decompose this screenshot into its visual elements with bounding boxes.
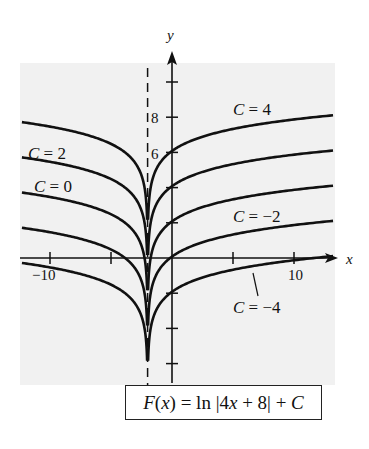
curve-label-cm4: C = −4 <box>233 298 281 317</box>
y-axis-label: y <box>165 27 174 43</box>
y-tick-label-6: 6 <box>151 146 159 162</box>
curve-label-cm2: C = −2 <box>233 207 281 226</box>
formula-text: F(x) = ln |4x + 8| + C <box>143 392 304 414</box>
curve-label-c2: C = 2 <box>28 144 66 163</box>
x-tick-label-neg10: −10 <box>32 267 55 283</box>
curve-label-c4: C = 4 <box>233 100 271 119</box>
formula-box: F(x) = ln |4x + 8| + C <box>125 385 322 420</box>
x-tick-label-10: 10 <box>288 267 303 283</box>
plot-panel <box>20 63 335 385</box>
chart-figure: x y −10 10 8 6 C = 4 C = 2 C = 0 C = −2 … <box>0 0 369 449</box>
curve-label-c0: C = 0 <box>34 177 72 196</box>
x-axis-label: x <box>345 251 353 267</box>
y-tick-label-8: 8 <box>151 110 159 126</box>
